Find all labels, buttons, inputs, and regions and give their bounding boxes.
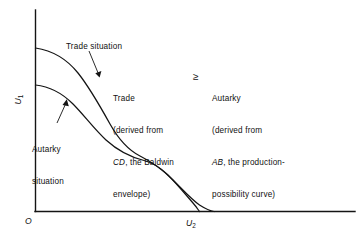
trade-note-line2: (derived from bbox=[113, 126, 174, 137]
y-axis-label-variable: U bbox=[13, 98, 23, 104]
y-axis-label-subscript: 1 bbox=[17, 95, 24, 99]
autarky-note-line4: possibility curve) bbox=[212, 190, 285, 201]
trade-note-line4: envelope) bbox=[113, 190, 174, 201]
trade-note-line3: CD, the Baldwin bbox=[113, 158, 174, 169]
trade-situation-arrow-icon bbox=[95, 71, 101, 77]
autarky-note-line2: (derived from bbox=[212, 126, 285, 137]
relation-symbol: ≥ bbox=[193, 72, 199, 83]
autarky-situation-label-line2: situation bbox=[32, 177, 64, 188]
autarky-note-block: Autarky (derived from AB, the production… bbox=[212, 73, 285, 221]
autarky-situation-label: Autarky situation bbox=[32, 124, 64, 209]
autarky-note-line1: Autarky bbox=[212, 94, 285, 105]
trade-note-source-curve: CD bbox=[113, 158, 125, 167]
origin-label: O bbox=[25, 216, 32, 226]
x-axis-label: U2 bbox=[186, 218, 196, 229]
autarky-note-line3: AB, the production- bbox=[212, 158, 285, 169]
x-axis-label-subscript: 2 bbox=[192, 222, 196, 229]
autarky-situation-leader-line bbox=[57, 103, 66, 123]
trade-note-block: Trade (derived from CD, the Baldwin enve… bbox=[113, 73, 174, 221]
trade-situation-leader-line bbox=[89, 51, 99, 74]
autarky-situation-label-line1: Autarky bbox=[32, 145, 64, 156]
trade-note-line1: Trade bbox=[113, 94, 174, 105]
autarky-situation-arrow-icon bbox=[63, 99, 69, 106]
trade-note-line3-rest: , the Baldwin bbox=[125, 158, 174, 167]
trade-situation-label: Trade situation bbox=[66, 42, 122, 53]
economics-utility-possibility-figure: U1 U2 O Trade situation Autarky situatio… bbox=[0, 0, 364, 245]
autarky-note-line3-rest: , the production- bbox=[223, 158, 285, 167]
y-axis-label: U1 bbox=[13, 86, 24, 114]
autarky-note-source-curve: AB bbox=[212, 158, 223, 167]
